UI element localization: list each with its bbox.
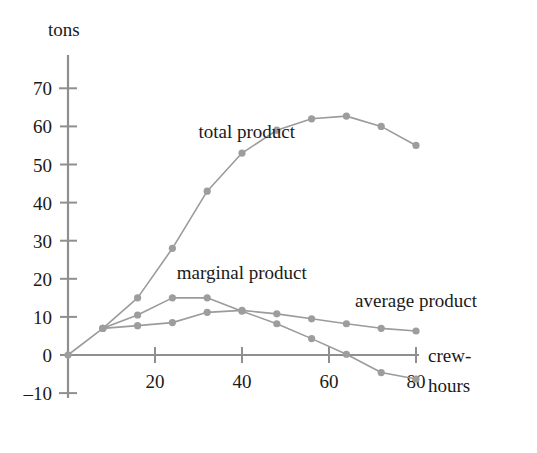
data-point [412, 142, 419, 149]
x-axis-ticks: 20406080 [146, 347, 426, 392]
y-tick-label-70: 70 [33, 78, 52, 99]
y-tick-label-30: 30 [33, 231, 52, 252]
y-tick-label-20: 20 [33, 269, 52, 290]
y-tick-label-50: 50 [33, 155, 52, 176]
data-point [308, 315, 315, 322]
production-function-chart: tons 706050403020100–10 20406080 total p… [0, 0, 537, 453]
data-point [412, 375, 419, 382]
data-point [238, 307, 245, 314]
data-point [134, 311, 141, 318]
x-tick-label-20: 20 [146, 371, 165, 392]
data-point [169, 245, 176, 252]
x-axis-title-line2: hours [428, 375, 470, 396]
chart-container: tons 706050403020100–10 20406080 total p… [0, 0, 537, 453]
y-tick-label-60: 60 [33, 116, 52, 137]
y-tick-label-10: 10 [33, 307, 52, 328]
data-point [64, 351, 71, 358]
data-point [308, 115, 315, 122]
series-label-marginal-product: marginal product [177, 262, 308, 283]
data-point [134, 322, 141, 329]
x-tick-label-60: 60 [320, 371, 339, 392]
series-label-average-product: average product [355, 290, 478, 311]
y-axis-title: tons [48, 19, 80, 40]
y-tick-label-40: 40 [33, 193, 52, 214]
data-point [204, 188, 211, 195]
data-point [99, 325, 106, 332]
x-tick-label-40: 40 [233, 371, 252, 392]
data-point [343, 320, 350, 327]
data-point [343, 351, 350, 358]
data-point [204, 309, 211, 316]
data-point [378, 123, 385, 130]
data-point [273, 310, 280, 317]
series-layer [64, 113, 419, 383]
series-label-total-product: total product [199, 121, 296, 142]
data-point [378, 369, 385, 376]
data-point [378, 325, 385, 332]
data-point [343, 113, 350, 120]
data-point [204, 294, 211, 301]
data-point [273, 320, 280, 327]
data-point [238, 149, 245, 156]
y-tick-label-0: 0 [43, 345, 53, 366]
data-point [169, 319, 176, 326]
data-point [308, 335, 315, 342]
data-point [134, 294, 141, 301]
data-point [169, 294, 176, 301]
data-point [412, 327, 419, 334]
series-line-average-product [103, 310, 416, 331]
x-axis-title-line1: crew- [428, 345, 471, 366]
y-tick-label--10: –10 [23, 383, 53, 404]
